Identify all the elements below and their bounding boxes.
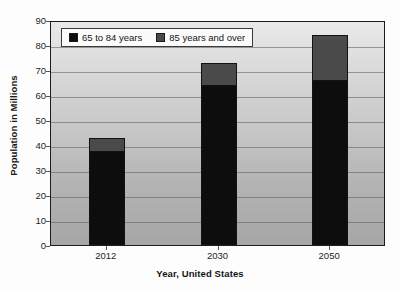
- y-tick-label: 70: [24, 66, 46, 76]
- y-tick-label: 50: [24, 116, 46, 126]
- x-tick-label: 2012: [76, 250, 136, 261]
- stacked-bar-chart: Population in Millions 01020304050607080…: [0, 0, 400, 291]
- bar-segment-65-to-84: [313, 81, 347, 244]
- x-tick-label: 2050: [299, 250, 359, 261]
- x-tick-label: 2030: [188, 250, 248, 261]
- y-tick-mark: [46, 121, 50, 122]
- y-tick-mark: [46, 221, 50, 222]
- y-tick-mark: [46, 71, 50, 72]
- y-axis-title: Population in Millions: [2, 0, 24, 250]
- y-tick-mark: [46, 171, 50, 172]
- y-tick-label: 60: [24, 91, 46, 101]
- y-tick-mark: [46, 246, 50, 247]
- y-tick-label: 80: [24, 41, 46, 51]
- legend-label-85-and-over: 85 years and over: [169, 32, 245, 43]
- bar-segment-85-and-over: [90, 139, 124, 153]
- legend-item-85-and-over: 85 years and over: [156, 32, 245, 43]
- x-tick-mark: [106, 246, 107, 250]
- legend-label-65-to-84: 65 to 84 years: [82, 32, 142, 43]
- legend-swatch-65-to-84: [69, 33, 78, 42]
- x-axis-tick-labels: 201220302050: [0, 250, 400, 264]
- y-tick-mark: [46, 146, 50, 147]
- bar-2012: [89, 138, 125, 246]
- bar-2050: [312, 35, 348, 245]
- plot-area: 65 to 84 years 85 years and over: [50, 21, 385, 246]
- chart-legend: 65 to 84 years 85 years and over: [61, 28, 253, 47]
- bar-segment-85-and-over: [313, 36, 347, 81]
- x-axis-title: Year, United States: [0, 268, 400, 279]
- bar-segment-85-and-over: [202, 64, 236, 87]
- y-axis-tick-labels: 0102030405060708090: [24, 0, 46, 291]
- y-tick-label: 90: [24, 16, 46, 26]
- x-tick-mark: [329, 246, 330, 250]
- y-axis-title-text: Population in Millions: [8, 75, 19, 175]
- x-tick-mark: [218, 246, 219, 250]
- y-tick-mark: [46, 96, 50, 97]
- legend-swatch-85-and-over: [156, 33, 165, 42]
- y-tick-mark: [46, 46, 50, 47]
- y-tick-label: 40: [24, 141, 46, 151]
- bar-segment-65-to-84: [202, 86, 236, 244]
- bar-2030: [201, 63, 237, 246]
- y-tick-label: 10: [24, 216, 46, 226]
- bar-segment-65-to-84: [90, 152, 124, 244]
- y-tick-mark: [46, 196, 50, 197]
- y-tick-mark: [46, 21, 50, 22]
- y-tick-label: 30: [24, 166, 46, 176]
- legend-item-65-to-84: 65 to 84 years: [69, 32, 142, 43]
- y-tick-label: 20: [24, 191, 46, 201]
